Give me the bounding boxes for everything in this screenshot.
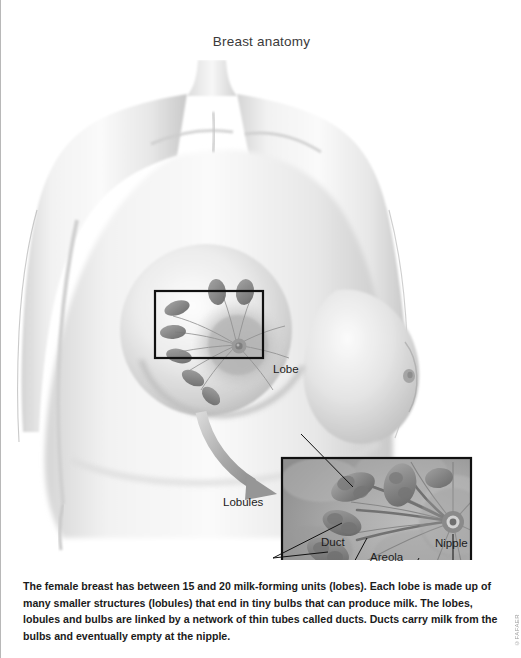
- label-duct: Duct: [321, 536, 345, 548]
- breast-anatomy-figure: Breast anatomy: [0, 0, 521, 658]
- detail-inset: [269, 450, 505, 560]
- figure-caption: The female breast has between 15 and 20 …: [23, 578, 499, 644]
- label-lobules: Lobules: [223, 496, 263, 508]
- anatomy-illustration: [1, 60, 521, 560]
- label-areola: Areola: [370, 551, 403, 563]
- label-lobe: Lobe: [273, 363, 299, 375]
- illustration-svg: [1, 60, 521, 560]
- copyright-credit: ©FAFAER: [514, 614, 520, 646]
- label-nipple: Nipple: [435, 537, 468, 549]
- page-title: Breast anatomy: [1, 34, 521, 49]
